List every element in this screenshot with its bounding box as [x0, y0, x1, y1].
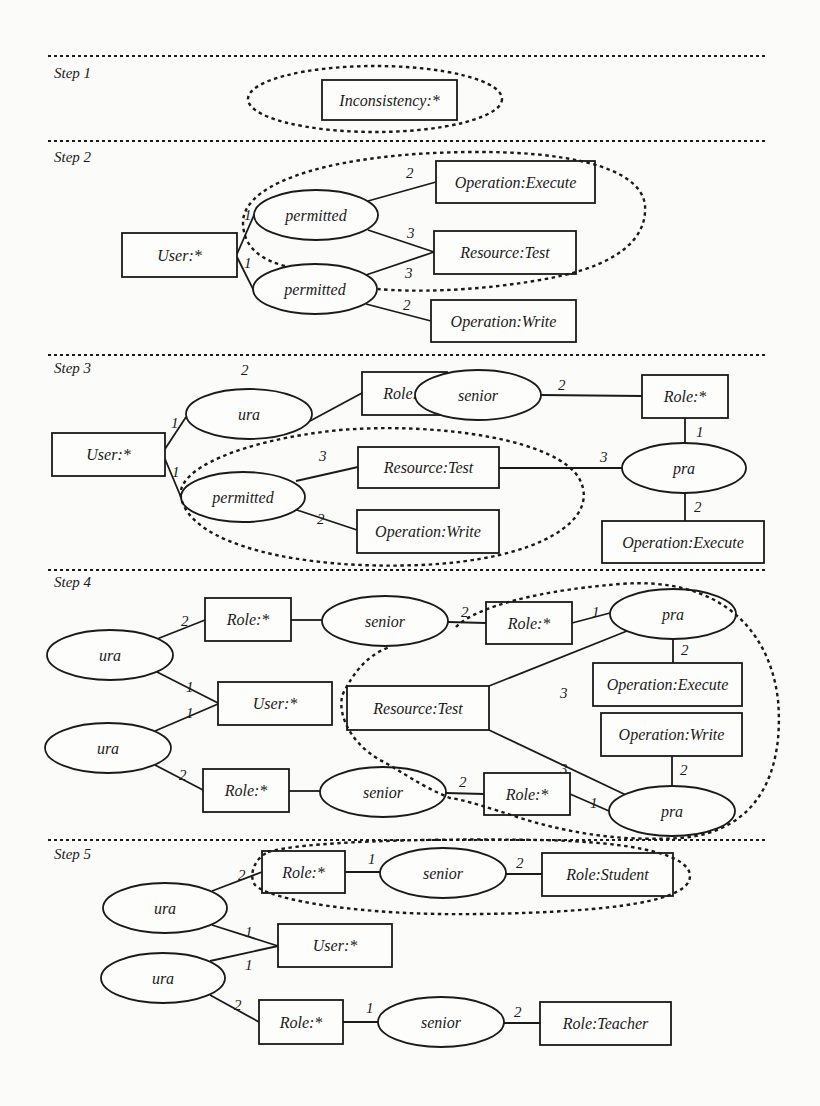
- step3-group: Step 31121213322User:*urapermittedRole:*…: [48, 355, 766, 566]
- concept-node: Role:Student: [542, 853, 673, 896]
- relation-node: permitted: [254, 190, 378, 240]
- concept-node: User:*: [218, 682, 332, 725]
- node-label: Role:Teacher: [562, 1015, 649, 1032]
- relation-node: ura: [186, 389, 312, 439]
- arc-cardinality: 1: [244, 255, 252, 271]
- node-label: Resource:Test: [383, 459, 474, 476]
- arc-edge: [212, 872, 262, 891]
- node-label: Role:*: [224, 782, 268, 799]
- arc-cardinality: 1: [245, 924, 253, 940]
- concept-node: Role:*: [262, 851, 345, 893]
- node-label: Operation:Execute: [607, 676, 729, 694]
- arc-cardinality: 1: [186, 705, 194, 721]
- node-label: permitted: [283, 281, 346, 299]
- arc-cardinality: 3: [599, 449, 608, 465]
- concept-node: Inconsistency:*: [322, 80, 457, 120]
- arc-cardinality: 3: [559, 685, 568, 701]
- concept-node: User:*: [52, 433, 165, 476]
- node-label: Inconsistency:*: [338, 92, 439, 110]
- relation-node: senior: [380, 848, 506, 898]
- arc-cardinality: 1: [172, 464, 180, 480]
- node-label: pra: [672, 460, 695, 478]
- arc-edge: [541, 395, 642, 396]
- arc-edge: [294, 509, 357, 530]
- arc-cardinality: 2: [234, 997, 242, 1013]
- concept-node: Operation:Execute: [602, 521, 764, 563]
- concept-node: Role:*: [484, 773, 570, 815]
- step2-group: Step 2112332User:*permittedpermittedOper…: [48, 141, 766, 342]
- arc-edge: [368, 182, 436, 201]
- relation-node: ura: [103, 883, 227, 933]
- concept-node: Operation:Write: [357, 510, 499, 553]
- concept-node: Operation:Write: [601, 713, 742, 756]
- concept-node: Role:*: [642, 375, 728, 418]
- node-label: ura: [154, 900, 176, 917]
- node-label: ura: [238, 406, 260, 423]
- arc-edge: [296, 467, 358, 481]
- relation-node: ura: [45, 723, 171, 773]
- node-label: User:*: [86, 446, 130, 463]
- arc-cardinality: 2: [681, 642, 689, 658]
- node-label: senior: [365, 613, 406, 630]
- diagram-canvas: Step 1Inconsistency:*Step 2112332User:*p…: [0, 0, 820, 1106]
- node-label: Role:*: [279, 1014, 323, 1031]
- node-label: Operation:Write: [451, 313, 557, 331]
- node-label: Role:*: [507, 615, 551, 632]
- concept-node: Role:*: [259, 1000, 343, 1044]
- relation-node: senior: [415, 370, 541, 420]
- relation-node: pra: [622, 443, 746, 493]
- arc-cardinality: 2: [558, 377, 566, 393]
- node-label: Operation:Execute: [622, 534, 744, 552]
- node-label: Role:*: [663, 388, 707, 405]
- step-label: Step 1: [54, 65, 91, 81]
- arc-cardinality: 1: [592, 604, 600, 620]
- arc-cardinality: 2: [241, 362, 249, 378]
- arc-cardinality: 1: [171, 415, 179, 431]
- concept-node: Resource:Test: [358, 447, 499, 488]
- relation-node: pra: [609, 786, 735, 836]
- arc-cardinality: 1: [590, 795, 598, 811]
- concept-node: Operation:Execute: [436, 161, 595, 203]
- arc-cardinality: 3: [404, 265, 413, 281]
- step-label: Step 3: [54, 360, 91, 376]
- concept-node: Role:*: [203, 769, 289, 812]
- node-label: ura: [97, 740, 119, 757]
- relation-node: ura: [101, 953, 225, 1003]
- step-label: Step 4: [54, 574, 92, 590]
- arc-cardinality: 2: [317, 511, 325, 527]
- node-label: User:*: [313, 937, 357, 954]
- node-label: senior: [423, 865, 464, 882]
- arc-edge: [448, 622, 486, 623]
- node-label: Operation:Write: [619, 726, 725, 744]
- concept-node: Role:*: [205, 598, 291, 641]
- step4-group: Step 421121122113322urauraRole:*User:*Ro…: [45, 570, 779, 839]
- arc-cardinality: 2: [516, 855, 524, 871]
- arc-edge: [366, 304, 431, 321]
- arc-cardinality: 1: [696, 424, 704, 440]
- node-label: senior: [458, 387, 499, 404]
- node-label: pra: [660, 803, 683, 821]
- relation-node: permitted: [181, 472, 305, 522]
- node-label: Role:*: [281, 864, 325, 881]
- arc-cardinality: 1: [368, 851, 376, 867]
- relation-node: ura: [47, 630, 173, 680]
- arc-cardinality: 1: [245, 957, 253, 973]
- arc-edge: [368, 230, 434, 252]
- node-label: senior: [421, 1014, 462, 1031]
- concept-node: Operation:Write: [431, 300, 576, 342]
- relation-node: pra: [610, 589, 736, 639]
- arc-cardinality: 3: [318, 448, 327, 464]
- concept-node: Resource:Test: [434, 231, 576, 274]
- arc-cardinality: 1: [366, 1000, 374, 1016]
- node-label: User:*: [157, 247, 201, 264]
- arc-cardinality: 3: [406, 225, 415, 241]
- arc-cardinality: 2: [514, 1004, 522, 1020]
- node-label: User:*: [253, 695, 297, 712]
- step-label: Step 2: [54, 149, 92, 165]
- concept-node: Operation:Execute: [593, 663, 742, 706]
- arc-cardinality: 2: [680, 762, 688, 778]
- step1-group: Step 1Inconsistency:*: [48, 56, 766, 132]
- arc-cardinality: 2: [238, 867, 246, 883]
- relation-node: senior: [378, 997, 504, 1047]
- arc-cardinality: 2: [694, 499, 702, 515]
